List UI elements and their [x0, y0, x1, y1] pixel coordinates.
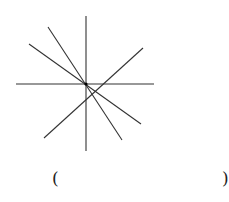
- answer-open-paren: (: [52, 168, 59, 188]
- center-point: [84, 82, 87, 85]
- answer-close-paren: ): [222, 168, 229, 188]
- lines-diagram: [0, 0, 229, 202]
- line-segment: [44, 48, 143, 138]
